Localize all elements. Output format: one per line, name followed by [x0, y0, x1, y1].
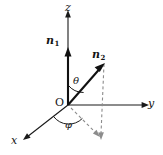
figure-canvas [0, 0, 163, 155]
axis-x-line [27, 105, 68, 137]
axis-x-arrowhead [23, 133, 31, 140]
projection-vertical-drop [98, 64, 104, 140]
axis-label-z: z [65, 2, 71, 13]
origin-label: O [55, 97, 64, 108]
angle-label-phi: φ [65, 120, 72, 130]
coordinate-system-figure: z y x O θ φ n1 n2 [0, 0, 163, 155]
vector-label-n2-subscript: 2 [101, 53, 106, 62]
vector-label-n2-name: n [92, 48, 100, 61]
axis-label-y: y [148, 98, 154, 109]
vector-label-n2: n2 [92, 49, 105, 61]
projection-ground-segment [71, 108, 95, 132]
projection-ground-line [71, 108, 100, 137]
vector-n1 [65, 47, 72, 105]
axis-y [68, 102, 149, 108]
angle-label-theta: θ [73, 76, 79, 86]
vector-label-n1-name: n [46, 34, 54, 47]
projection-vertical-line [101, 64, 104, 134]
vector-n1-arrowhead [65, 47, 72, 57]
vector-label-n1: n1 [46, 35, 59, 47]
axis-label-x: x [11, 135, 17, 146]
vector-label-n1-subscript: 1 [55, 39, 60, 48]
